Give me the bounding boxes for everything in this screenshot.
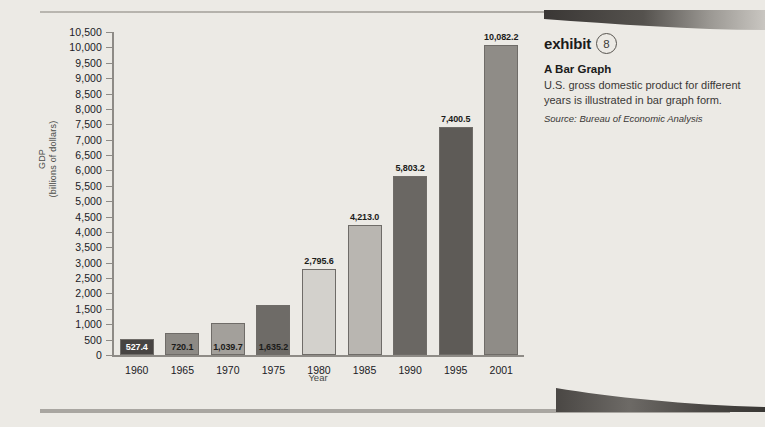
y-axis-tick <box>106 293 113 294</box>
y-axis-tick-label: 5,500 <box>75 180 102 192</box>
y-axis-tick-label: 2,500 <box>75 272 102 284</box>
bar-value-label: 5,803.2 <box>395 163 424 173</box>
y-axis-tick <box>106 170 113 171</box>
x-axis-line <box>112 355 524 357</box>
y-axis-tick <box>106 247 113 248</box>
bar-value-label: 2,795.6 <box>304 256 333 266</box>
bar-value-label: 7,400.5 <box>441 114 470 124</box>
y-axis-tick <box>106 63 113 64</box>
bar-column: 1,039.7 <box>211 323 245 355</box>
x-axis-title: Year <box>112 372 524 383</box>
y-axis-tick-label: 1,500 <box>75 303 102 315</box>
bar-column: 2,795.6 <box>302 269 336 355</box>
bar <box>348 225 382 355</box>
bar-value-label: 527.4 <box>126 342 148 352</box>
exhibit-number-badge: 8 <box>596 33 617 54</box>
y-axis-title: GDP (billions of dollars) <box>37 89 59 229</box>
bar <box>484 45 518 355</box>
bar-column: 720.1 <box>165 333 199 355</box>
top-swoosh-graphic <box>544 8 765 30</box>
y-axis-tick-label: 8,000 <box>75 103 102 115</box>
y-axis-tick-label: 9,500 <box>75 57 102 69</box>
y-axis-tick-label: 7,000 <box>75 134 102 146</box>
y-axis-tick-label: 1,000 <box>75 318 102 330</box>
y-axis-tick-label: 10,000 <box>69 41 102 53</box>
bar-value-label: 1,039.7 <box>213 342 242 352</box>
y-axis-tick <box>106 186 113 187</box>
bar-column: 4,213.0 <box>348 225 382 355</box>
exhibit-label: exhibit <box>544 35 591 52</box>
y-axis-tick <box>106 278 113 279</box>
y-axis-tick-label: 0 <box>96 349 102 361</box>
exhibit-source: Source: Bureau of Economic Analysis <box>544 113 754 124</box>
bar <box>439 127 473 355</box>
y-axis-tick-label: 7,500 <box>75 118 102 130</box>
bar-value-label: 10,082.2 <box>484 32 518 42</box>
y-axis-tick-label: 4,500 <box>75 211 102 223</box>
y-axis-tick-label: 10,500 <box>69 26 102 38</box>
bar-value-label: 4,213.0 <box>350 212 379 222</box>
exhibit-description: U.S. gross domestic product for differen… <box>544 78 754 107</box>
y-axis-tick <box>106 155 113 156</box>
y-axis-tick <box>106 94 113 95</box>
y-axis-tick <box>106 309 113 310</box>
y-axis-tick-label: 3,000 <box>75 257 102 269</box>
y-axis-tick <box>106 340 113 341</box>
y-axis-tick-label: 5,000 <box>75 195 102 207</box>
y-axis-tick <box>106 124 113 125</box>
bar-value-label: 1,635.2 <box>259 342 288 352</box>
y-axis-tick <box>106 109 113 110</box>
exhibit-title: A Bar Graph <box>544 63 754 75</box>
y-axis-tick <box>106 78 113 79</box>
y-axis-tick-label: 3,500 <box>75 241 102 253</box>
bar <box>302 269 336 355</box>
bar-column: 10,082.2 <box>484 45 518 355</box>
y-axis-tick <box>106 355 113 356</box>
y-axis-tick-label: 6,500 <box>75 149 102 161</box>
exhibit-page: GDP (billions of dollars) 05001,0001,500… <box>0 0 765 427</box>
y-axis-tick-label: 6,000 <box>75 164 102 176</box>
bar <box>393 176 427 355</box>
exhibit-panel: exhibit 8 A Bar Graph U.S. gross domesti… <box>544 33 754 124</box>
y-axis-tick <box>106 47 113 48</box>
y-axis-tick-label: 8,500 <box>75 88 102 100</box>
bottom-swoosh-graphic <box>556 388 765 412</box>
bar-value-label: 720.1 <box>171 342 193 352</box>
y-axis-tick <box>106 232 113 233</box>
y-axis-tick <box>106 263 113 264</box>
plot-area: 05001,0001,5002,0002,5003,0003,5004,0004… <box>112 32 524 357</box>
y-axis-tick-label: 2,000 <box>75 287 102 299</box>
y-axis-tick-label: 500 <box>84 334 102 346</box>
bar-series: 527.4720.11,039.71,635.22,795.64,213.05,… <box>114 32 524 355</box>
y-axis-tick-label: 4,000 <box>75 226 102 238</box>
y-axis-tick <box>106 217 113 218</box>
bar-column: 1,635.2 <box>256 305 290 355</box>
bar-column: 5,803.2 <box>393 176 427 355</box>
exhibit-header: exhibit 8 <box>544 33 754 54</box>
bar-chart: GDP (billions of dollars) 05001,0001,500… <box>0 20 530 395</box>
y-axis-tick-label: 9,000 <box>75 72 102 84</box>
y-axis-title-line1: GDP <box>37 89 48 229</box>
y-axis-tick <box>106 32 113 33</box>
y-axis-title-line2: (billions of dollars) <box>48 89 59 229</box>
y-axis-tick <box>106 201 113 202</box>
y-axis-tick <box>106 140 113 141</box>
y-axis-tick <box>106 324 113 325</box>
bar-column: 527.4 <box>120 339 154 355</box>
bar-column: 7,400.5 <box>439 127 473 355</box>
